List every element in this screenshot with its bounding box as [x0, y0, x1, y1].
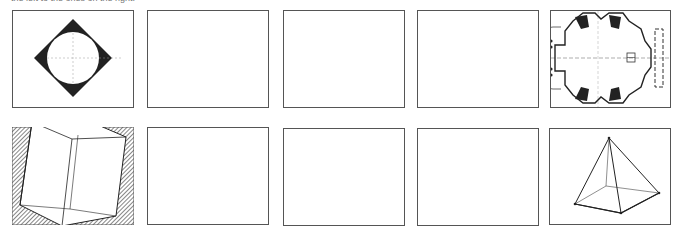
- exercise-caption: the left to the ones on the right.: [11, 0, 135, 3]
- drawing-frame-r2c4[interactable]: [417, 128, 539, 226]
- drawing-frame-r1c1: [12, 10, 134, 108]
- drawing-frame-r2c2[interactable]: [147, 127, 269, 225]
- floor-plan-drawing-icon: [551, 11, 670, 107]
- drawing-frame-r1c3[interactable]: [283, 10, 405, 108]
- drawing-frame-r2c3[interactable]: [283, 128, 405, 226]
- drawing-frame-r2c5: [549, 128, 671, 225]
- diamond-circle-drawing-icon: [13, 11, 133, 107]
- pyramid-drawing-icon: [550, 129, 670, 224]
- drawing-frame-r1c5: [550, 10, 671, 108]
- hatched-cube-drawing-icon: [12, 127, 134, 225]
- drawing-frame-r2c1: [12, 127, 134, 225]
- drawing-frame-r1c4[interactable]: [417, 10, 539, 108]
- drawing-frame-r1c2[interactable]: [147, 10, 269, 108]
